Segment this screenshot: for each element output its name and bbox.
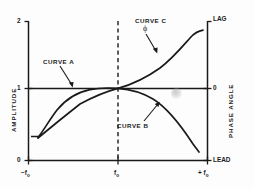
right-tick-label-lag: LAG bbox=[213, 16, 227, 22]
right-tick-label-lead: LEAD bbox=[213, 157, 230, 163]
left-tick-label-2: 2 bbox=[17, 18, 21, 24]
curve-a-leader-line bbox=[60, 66, 72, 85]
bottom-tick-label-plus-f0: + fo bbox=[198, 170, 208, 179]
bottom-tick-f0-sub: o bbox=[116, 173, 119, 178]
curve-b-leader-line bbox=[144, 104, 158, 121]
left-axis-title: AMPLITUDE bbox=[11, 88, 17, 132]
left-tick-label-1: 1 bbox=[17, 85, 21, 91]
figure-root: 2 1 0 AMPLITUDE LAG 0 LEAD PHASE ANGLE −… bbox=[0, 0, 254, 188]
bottom-tick-plus-f0-sub: o bbox=[206, 173, 209, 178]
scan-smudge-artifact bbox=[171, 88, 182, 99]
curve-c-leader-arrowhead bbox=[153, 48, 158, 54]
bottom-tick-label-f0: fo bbox=[114, 170, 119, 179]
right-axis-title: PHASE ANGLE bbox=[228, 84, 234, 138]
curve-a-label: CURVE A bbox=[43, 59, 74, 65]
bottom-tick-plus-f0-base: + f bbox=[198, 169, 206, 176]
bottom-tick-label-minus-f0: −fo bbox=[21, 170, 30, 179]
bottom-tick-minus-f0-sub: o bbox=[27, 173, 30, 178]
curve-c-label: CURVE C bbox=[135, 18, 167, 24]
phi-symbol-label: ϕ bbox=[143, 25, 147, 33]
left-tick-label-0: 0 bbox=[17, 157, 21, 163]
curve-b-label: CURVE B bbox=[117, 123, 149, 129]
right-tick-label-0: 0 bbox=[213, 85, 217, 91]
curve-a-leader-arrowhead bbox=[69, 82, 74, 88]
